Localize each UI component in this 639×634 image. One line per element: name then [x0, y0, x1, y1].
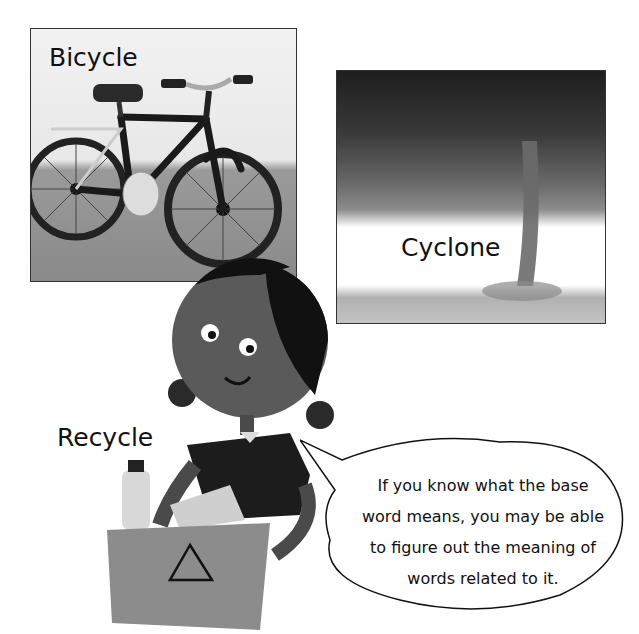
speech-line: If you know what the base	[338, 470, 628, 501]
cyclone-panel: Cyclone	[336, 70, 606, 324]
speech-line: words related to it.	[338, 563, 628, 594]
bicycle-panel: Bicycle	[30, 28, 297, 282]
speech-bubble-text: If you know what the base word means, yo…	[338, 470, 628, 594]
speech-line: to figure out the meaning of	[338, 532, 628, 563]
speech-line: word means, you may be able	[338, 501, 628, 532]
recycle-label: Recycle	[57, 423, 153, 452]
tornado-illustration	[337, 71, 605, 323]
bicycle-illustration	[31, 29, 296, 281]
cyclone-label: Cyclone	[401, 233, 500, 262]
